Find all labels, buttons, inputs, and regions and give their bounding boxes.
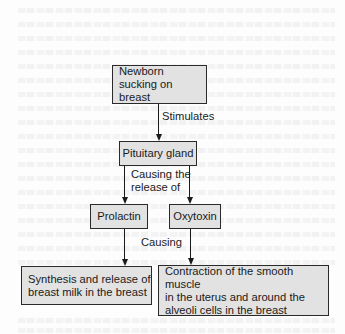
background-texture (18, 8, 335, 13)
node-contraction-label: Contraction of the smooth muscle in the … (159, 265, 328, 317)
background-texture (18, 22, 335, 27)
node-synthesis: Synthesis and release of breast milk in … (21, 266, 152, 305)
background-texture (18, 318, 335, 323)
node-newborn: Newborn sucking on breast (112, 65, 207, 104)
edge-prolactin-synthesis (124, 229, 125, 260)
arrowhead-icon (122, 259, 128, 266)
node-prolactin: Prolactin (90, 204, 148, 229)
arrowhead-icon (122, 197, 128, 204)
node-synthesis-label: Synthesis and release of breast milk in … (22, 273, 151, 299)
background-texture (18, 134, 335, 139)
arrowhead-icon (187, 197, 193, 204)
edge-oxytoxin-contraction (190, 229, 191, 259)
node-oxytoxin-label: Oxytoxin (173, 210, 217, 223)
background-texture (18, 328, 335, 333)
edge-label-stimulates: Stimulates (162, 110, 214, 123)
background-texture (18, 50, 335, 55)
flowchart-canvas: Newborn sucking on breast Stimulates Pit… (0, 0, 345, 334)
edge-newborn-pituitary (158, 104, 159, 135)
arrowhead-icon (156, 134, 162, 141)
edge-label-causing: Causing (141, 236, 182, 249)
node-oxytoxin: Oxytoxin (169, 204, 221, 229)
node-pituitary-label: Pituitary gland (123, 147, 194, 160)
node-newborn-label: Newborn sucking on breast (113, 65, 206, 104)
node-pituitary: Pituitary gland (119, 141, 197, 166)
background-texture (18, 36, 335, 41)
node-prolactin-label: Prolactin (97, 210, 141, 223)
edge-label-causing-release: Causing the release of (131, 168, 191, 193)
edge-pituitary-prolactin (124, 166, 125, 198)
node-contraction: Contraction of the smooth muscle in the … (158, 265, 329, 316)
